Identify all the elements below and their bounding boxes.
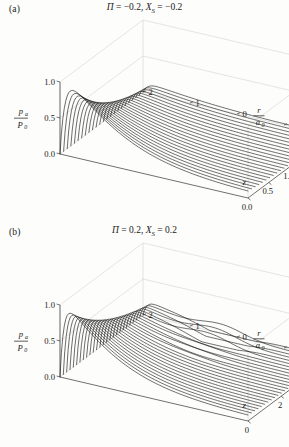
- panel-b-ztick-0: 0: [245, 425, 249, 435]
- panel-b-plot: 1.00.50.0paP0024z210−1−2ra0: [0, 223, 289, 446]
- panel-a-rlabel-num: r: [257, 105, 261, 115]
- panel-b-vtick-1: 0.5: [44, 336, 55, 346]
- panel-a-vtick-1: 0.5: [44, 113, 55, 123]
- panel-a-vtick-2: 0.0: [44, 149, 55, 159]
- panel-a-rtick-0: 2: [149, 87, 153, 97]
- panel-b-rtick-0: 2: [149, 310, 153, 320]
- panel-a-rlabel-den: a: [256, 117, 260, 127]
- panel-a-ztick-1: 0.5: [262, 186, 273, 196]
- panel-b-rlabel-den: a: [256, 340, 260, 350]
- panel-b-zlabel: z: [241, 400, 246, 410]
- figure-container: (a) Π = −0.2, XS = −0.2 1.00.50.0paP00.0…: [0, 0, 289, 447]
- panel-b-rlabel-num: r: [257, 328, 261, 338]
- panel-a-rlabel-den-sub: 0: [261, 122, 264, 128]
- panel-b-rlabel-den-sub: 0: [261, 345, 264, 351]
- panel-a-ztick-2: 1.0: [283, 171, 289, 181]
- panel-b-ztick-1: 2: [278, 400, 282, 410]
- panel-b-ylabel-num-sub: a: [25, 334, 28, 340]
- panel-a-plot: 1.00.50.0paP00.00.51.01.52.0z210−1−2ra0: [0, 0, 289, 223]
- panel-b-ylabel-den: P: [16, 343, 23, 353]
- panel-b-rtick-1: 1: [196, 321, 200, 331]
- panel-a-ylabel-num-sub: a: [25, 111, 28, 117]
- panel-b-vtick-0: 1.0: [44, 300, 55, 310]
- panel-b-rtick-2: 0: [243, 332, 247, 342]
- panel-a-ylabel-num: p: [18, 106, 24, 116]
- panel-b-ylabel-num: p: [18, 329, 24, 339]
- panel-a-ztick-0: 0.0: [242, 202, 253, 212]
- panel-a-rtick-1: 1: [196, 98, 200, 108]
- panel-b-ylabel-den-sub: 0: [24, 347, 27, 353]
- panel-a-zlabel: z: [241, 177, 246, 187]
- panel-a-ylabel-den-sub: 0: [24, 124, 27, 130]
- panel-a-vtick-0: 1.0: [44, 77, 55, 87]
- panel-a-ylabel-den: P: [16, 120, 23, 130]
- panel-b-vtick-2: 0.0: [44, 372, 55, 382]
- panel-a-rtick-2: 0: [243, 109, 247, 119]
- panel-a: (a) Π = −0.2, XS = −0.2 1.00.50.0paP00.0…: [0, 0, 289, 223]
- panel-b: (b) Π = 0.2, XS = 0.2 1.00.50.0paP0024z2…: [0, 223, 289, 446]
